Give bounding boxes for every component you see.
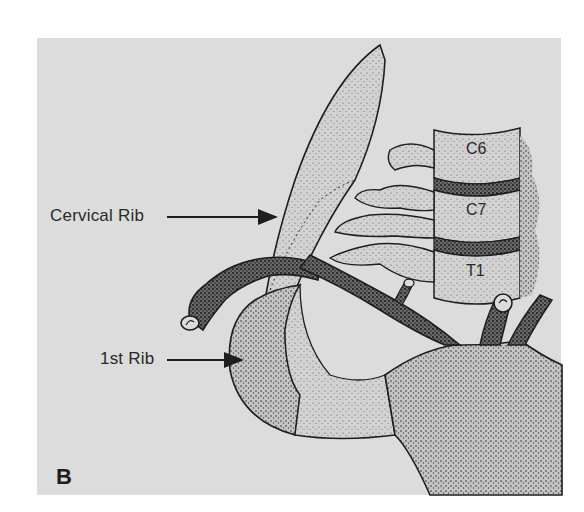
anatomical-illustration — [0, 0, 584, 512]
vertebra-t1-label: T1 — [466, 262, 485, 280]
panel-letter: B — [56, 464, 72, 490]
cervical-rib-label: Cervical Rib — [50, 206, 144, 226]
figure-canvas: Cervical Rib 1st Rib C6 C7 T1 B — [0, 0, 584, 512]
vertebral-column — [434, 128, 539, 304]
vertebra-c6-label: C6 — [466, 140, 486, 158]
first-rib-label: 1st Rib — [100, 349, 154, 369]
first-rib-shape — [229, 285, 395, 439]
vertebra-c7-label: C7 — [466, 201, 486, 219]
sternum — [385, 340, 562, 495]
